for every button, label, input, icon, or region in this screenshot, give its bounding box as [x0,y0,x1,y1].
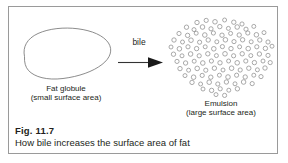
bile-label: bile [113,38,165,48]
fat-globule-subtitle: (small surface area) [8,94,124,103]
figure-number: Fig. 11.7 [15,125,54,136]
emulsion-subtitle: (large surface area) [166,109,276,118]
figure-caption: How bile increases the surface area of f… [15,137,190,148]
fat-globule-label: Fat globule (small surface area) [8,85,124,103]
figure-container: bile Fat globule (small surface area) Em… [0,0,288,163]
emulsion-label: Emulsion (large surface area) [166,100,276,118]
bile-label-text: bile [132,37,145,47]
